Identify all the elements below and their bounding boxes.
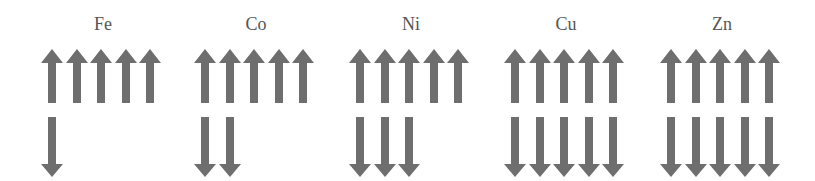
- spin-up-arrow-icon: [529, 49, 551, 103]
- spin-down-arrow-icon: [709, 117, 731, 177]
- spin-down-arrow-icon: [578, 117, 600, 177]
- spin-down-arrow-icon: [553, 117, 575, 177]
- element-label: Ni: [349, 14, 473, 35]
- spin-up-arrow-icon: [374, 49, 396, 103]
- element-group-zn: Zn: [660, 0, 790, 181]
- spin-up-arrow-icon: [553, 49, 575, 103]
- spin-up-arrow-icon: [90, 49, 112, 103]
- spin-up-arrow-icon: [423, 49, 445, 103]
- spin-up-arrow-icon: [292, 49, 314, 103]
- spin-down-arrow-icon: [758, 117, 780, 177]
- spin-down-arrow-icon: [398, 117, 420, 177]
- spin-down-arrow-icon: [529, 117, 551, 177]
- element-label: Co: [194, 14, 318, 35]
- spin-up-arrow-icon: [398, 49, 420, 103]
- spin-up-arrow-icon: [268, 49, 290, 103]
- element-group-cu: Cu: [504, 0, 634, 181]
- spin-up-arrow-icon: [758, 49, 780, 103]
- spin-up-arrow-icon: [349, 49, 371, 103]
- spin-down-arrow-icon: [194, 117, 216, 177]
- spin-down-arrow-icon: [660, 117, 682, 177]
- spin-down-arrow-icon: [41, 117, 63, 177]
- spin-up-arrow-icon: [41, 49, 63, 103]
- spin-up-arrow-icon: [709, 49, 731, 103]
- spin-up-arrow-icon: [115, 49, 137, 103]
- spin-up-arrow-icon: [685, 49, 707, 103]
- spin-down-arrow-icon: [374, 117, 396, 177]
- spin-up-arrow-icon: [219, 49, 241, 103]
- spin-down-arrow-icon: [504, 117, 526, 177]
- spin-up-arrow-icon: [578, 49, 600, 103]
- element-group-co: Co: [194, 0, 324, 181]
- spin-up-arrow-icon: [243, 49, 265, 103]
- spin-down-arrow-icon: [349, 117, 371, 177]
- spin-up-arrow-icon: [194, 49, 216, 103]
- spin-up-arrow-icon: [447, 49, 469, 103]
- spin-down-arrow-icon: [734, 117, 756, 177]
- element-group-fe: Fe: [41, 0, 171, 181]
- element-label: Cu: [504, 14, 628, 35]
- spin-down-arrow-icon: [685, 117, 707, 177]
- element-label: Fe: [41, 14, 165, 35]
- element-label: Zn: [660, 14, 784, 35]
- element-group-ni: Ni: [349, 0, 479, 181]
- spin-up-arrow-icon: [660, 49, 682, 103]
- spin-up-arrow-icon: [602, 49, 624, 103]
- spin-up-arrow-icon: [139, 49, 161, 103]
- spin-down-arrow-icon: [219, 117, 241, 177]
- spin-down-arrow-icon: [602, 117, 624, 177]
- spin-up-arrow-icon: [66, 49, 88, 103]
- spin-up-arrow-icon: [734, 49, 756, 103]
- spin-up-arrow-icon: [504, 49, 526, 103]
